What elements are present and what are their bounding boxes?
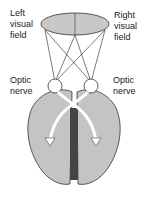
right-eye <box>84 79 98 93</box>
label-optic-nerve-right: Optic nerve <box>113 75 136 97</box>
label-right-visual-field: Right visual field <box>114 10 137 43</box>
brain-right-hemisphere <box>77 90 120 185</box>
fissure <box>70 108 78 180</box>
left-eye <box>48 79 62 93</box>
light-rays <box>45 30 105 82</box>
label-optic-nerve-left: Optic nerve <box>10 75 33 97</box>
label-left-visual-field: Left visual field <box>10 8 33 41</box>
visual-pathway-diagram: Left visual field Right visual field Opt… <box>0 0 147 198</box>
